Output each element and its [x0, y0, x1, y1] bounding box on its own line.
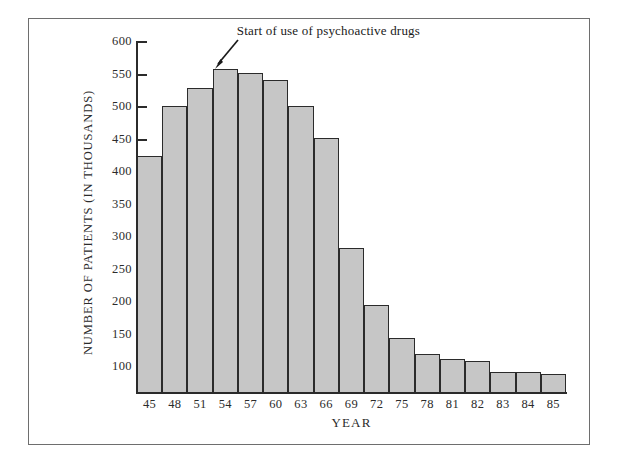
annotation-label: Start of use of psychoactive drugs	[237, 23, 420, 39]
bar-82	[465, 361, 490, 394]
x-axis-tick-label: 84	[516, 396, 541, 412]
x-axis-tick-label: 69	[339, 396, 364, 412]
bars-group	[137, 42, 566, 393]
y-axis-tick-label: 500	[98, 100, 132, 112]
x-axis-tick-label: 63	[288, 396, 313, 412]
bar-54	[213, 69, 238, 393]
bar-72	[364, 305, 389, 393]
bar-75	[389, 338, 414, 393]
y-axis-tick-label: 550	[98, 68, 132, 80]
x-axis-tick-label: 45	[137, 396, 162, 412]
annotation-arrow-icon	[210, 37, 244, 71]
y-axis-tick-label: 200	[98, 295, 132, 307]
x-axis-tick-label: 72	[364, 396, 389, 412]
y-axis-tick-label: 250	[98, 263, 132, 275]
bar-45	[137, 156, 162, 393]
x-axis-tick-label: 54	[213, 396, 238, 412]
y-axis-tick-label: 600	[98, 35, 132, 47]
bar-78	[415, 354, 440, 393]
bar-69	[339, 248, 364, 393]
bar-chart: 100150200250300350400450500550600 454851…	[0, 0, 619, 464]
bar-63	[288, 106, 313, 393]
y-axis-tick-label: 300	[98, 230, 132, 242]
x-axis-tick-label: 82	[465, 396, 490, 412]
x-axis-tick-label: 78	[415, 396, 440, 412]
x-axis-tick-label: 51	[187, 396, 212, 412]
bar-57	[238, 73, 263, 393]
x-axis-tick-label: 48	[162, 396, 187, 412]
bar-60	[263, 80, 288, 393]
x-axis-tick-label: 81	[440, 396, 465, 412]
y-axis-tick-label: 150	[98, 328, 132, 340]
y-axis-tick-label: 350	[98, 198, 132, 210]
bar-66	[314, 138, 339, 393]
x-axis-title: YEAR	[137, 415, 566, 431]
y-axis-tick-labels: 100150200250300350400450500550600	[92, 0, 132, 464]
bar-83	[490, 372, 515, 393]
bar-51	[187, 88, 212, 393]
y-axis-tick-label: 100	[98, 360, 132, 372]
x-axis-tick-label: 57	[238, 396, 263, 412]
x-axis-tick-label: 85	[541, 396, 566, 412]
x-axis-tick-label: 75	[389, 396, 414, 412]
bar-85	[541, 374, 566, 393]
y-axis-tick-label: 400	[98, 165, 132, 177]
x-axis-tick-label: 66	[314, 396, 339, 412]
x-axis-tick-label: 83	[490, 396, 515, 412]
x-axis-tick-label: 60	[263, 396, 288, 412]
y-axis-tick-label: 450	[98, 133, 132, 145]
bar-48	[162, 106, 187, 393]
bar-81	[440, 359, 465, 393]
x-axis-tick-labels: 4548515457606366697275788182838485	[137, 396, 566, 416]
y-axis-title: NUMBER OF PATIENTS (IN THOUSANDS)	[81, 73, 96, 373]
bar-84	[516, 372, 541, 393]
